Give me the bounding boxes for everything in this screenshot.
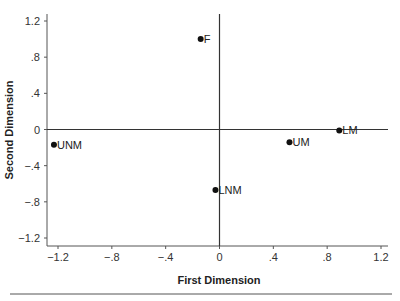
point-label: UM bbox=[292, 136, 309, 148]
data-points: FUNMUMLMLNM bbox=[51, 33, 358, 196]
y-axis-title: Second Dimension bbox=[3, 80, 15, 179]
point-label: F bbox=[204, 33, 211, 45]
data-point-lnm: LNM bbox=[212, 184, 241, 196]
x-axis-ticks: −1.2−.8−.40.4.81.2 bbox=[47, 246, 389, 263]
y-tick-label: −.4 bbox=[24, 160, 40, 172]
y-axis-ticks: 1.2.8.40−.4−.8−1.2 bbox=[18, 15, 47, 244]
y-tick-label: 1.2 bbox=[25, 15, 40, 27]
point-label: LNM bbox=[218, 184, 241, 196]
x-tick-label: −1.2 bbox=[47, 251, 69, 263]
x-axis-title: First Dimension bbox=[177, 274, 260, 286]
data-point-lm: LM bbox=[336, 124, 357, 136]
x-tick-label: .8 bbox=[323, 251, 332, 263]
y-tick-label: −1.2 bbox=[18, 232, 40, 244]
x-tick-label: 1.2 bbox=[373, 251, 388, 263]
point-label: UNM bbox=[57, 139, 82, 151]
x-tick-label: −.4 bbox=[158, 251, 174, 263]
y-tick-label: .4 bbox=[31, 87, 40, 99]
y-tick-label: −.8 bbox=[24, 196, 40, 208]
data-point-um: UM bbox=[286, 136, 309, 148]
data-point-f: F bbox=[198, 33, 211, 45]
data-point-unm: UNM bbox=[51, 139, 82, 151]
x-tick-label: −.8 bbox=[104, 251, 120, 263]
y-tick-label: .8 bbox=[31, 51, 40, 63]
y-tick-label: 0 bbox=[34, 124, 40, 136]
x-tick-label: 0 bbox=[216, 251, 222, 263]
scatter-chart: 1.2.8.40−.4−.8−1.2 −1.2−.8−.40.4.81.2 FU… bbox=[0, 0, 400, 301]
point-label: LM bbox=[342, 124, 357, 136]
x-tick-label: .4 bbox=[269, 251, 278, 263]
